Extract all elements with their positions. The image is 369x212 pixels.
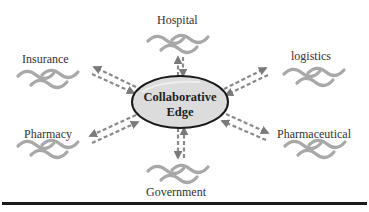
node-label-pharmaceutical: Pharmaceutical (277, 128, 351, 140)
diagram-canvas: Collaborative Edge Hospital Insurance lo… (0, 0, 369, 212)
connector-insurance (92, 67, 136, 93)
wave-icon-logistics (284, 68, 344, 85)
connector-logistics (224, 68, 268, 95)
center-label-line1: Collaborative (131, 90, 229, 105)
wave-icon-government (148, 165, 208, 182)
node-label-logistics: logistics (291, 50, 331, 62)
node-label-pharmacy: Pharmacy (24, 128, 72, 140)
wave-icon-insurance (18, 70, 78, 87)
wave-icon-pharmacy (18, 140, 78, 157)
wave-icon-hospital (148, 35, 208, 52)
center-label-line2: Edge (131, 105, 229, 120)
bottom-rule (2, 202, 367, 205)
connector-hospital (178, 57, 183, 76)
node-label-hospital: Hospital (157, 14, 198, 26)
node-label-insurance: Insurance (22, 53, 69, 65)
node-label-government: Government (146, 186, 206, 198)
connector-government (178, 128, 184, 158)
wave-icon-pharmaceutical (285, 140, 345, 157)
center-label: Collaborative Edge (131, 90, 229, 120)
